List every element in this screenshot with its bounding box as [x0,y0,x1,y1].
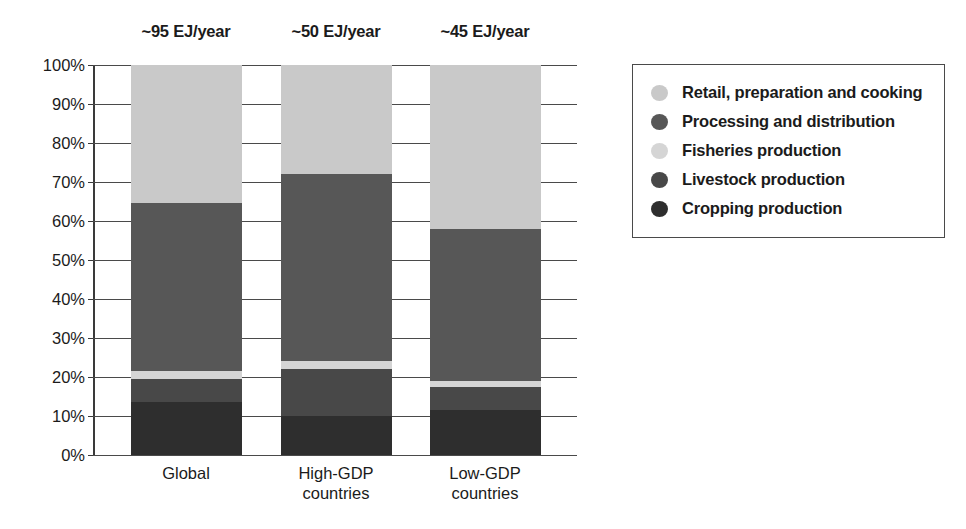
x-tick-label-line: High-GDP [256,463,416,483]
x-tick-label-line: Low-GDP [405,463,565,483]
legend-item[interactable]: Fisheries production [651,136,936,165]
bar-annotation: ~95 EJ/year [111,22,261,41]
y-tick-0 [88,455,93,456]
y-tick-100 [88,65,93,66]
legend-item-label: Livestock production [682,170,845,189]
x-tick-label: Low-GDPcountries [405,463,565,503]
stacked-bar-chart: ~95 EJ/year~50 EJ/year~45 EJ/year 100%90… [0,0,620,529]
y-tick-70 [88,182,93,183]
bar-segment-processing-and-distribution [430,229,541,381]
x-tick-label: Global [106,463,266,483]
y-tick-label: 30% [7,330,85,347]
legend-item-label: Cropping production [682,199,842,218]
y-tick-label: 60% [7,213,85,230]
bar-high-gdp-countries [281,65,392,455]
legend-item-label: Fisheries production [682,141,841,160]
legend-items: Retail, preparation and cookingProcessin… [651,78,936,223]
bar-segment-retail-preparation-and-cooking [430,65,541,229]
legend-item[interactable]: Livestock production [651,165,936,194]
bar-low-gdp-countries [430,65,541,455]
bar-segment-fisheries-production [281,361,392,369]
bar-segment-livestock-production [281,369,392,416]
legend-item[interactable]: Processing and distribution [651,107,936,136]
legend-item[interactable]: Cropping production [651,194,936,223]
y-tick-40 [88,299,93,300]
legend-swatch-circle-icon [651,172,668,188]
gridline-0 [93,455,577,456]
bar-annotation: ~45 EJ/year [410,22,560,41]
legend-swatch-circle-icon [651,143,668,159]
legend-swatch-circle-icon [651,85,668,101]
x-tick-label-line: Global [106,463,266,483]
y-tick-90 [88,104,93,105]
bar-segment-livestock-production [131,379,242,402]
y-tick-label: 40% [7,291,85,308]
bar-segment-cropping-production [131,402,242,455]
x-tick-label-line: countries [405,483,565,503]
bar-segment-retail-preparation-and-cooking [281,65,392,174]
bar-global [131,65,242,455]
y-tick-label: 20% [7,369,85,386]
legend-swatch-circle-icon [651,201,668,217]
legend-item[interactable]: Retail, preparation and cooking [651,78,936,107]
y-tick-50 [88,260,93,261]
plot-area [93,65,577,455]
y-tick-label: 0% [7,447,85,464]
bar-segment-processing-and-distribution [281,174,392,361]
y-tick-label: 100% [7,57,85,74]
y-tick-label: 50% [7,252,85,269]
y-tick-20 [88,377,93,378]
bar-segment-fisheries-production [131,371,242,379]
bar-segment-cropping-production [430,410,541,455]
y-tick-label: 90% [7,96,85,113]
y-tick-label: 10% [7,408,85,425]
y-tick-label: 70% [7,174,85,191]
bar-annotation: ~50 EJ/year [261,22,411,41]
legend-item-label: Processing and distribution [682,112,895,131]
legend: Retail, preparation and cookingProcessin… [632,64,945,238]
legend-swatch-circle-icon [651,114,668,130]
y-tick-60 [88,221,93,222]
x-tick-label-line: countries [256,483,416,503]
y-tick-10 [88,416,93,417]
x-tick-label: High-GDPcountries [256,463,416,503]
legend-item-label: Retail, preparation and cooking [682,83,922,102]
y-tick-80 [88,143,93,144]
y-tick-30 [88,338,93,339]
bar-segment-processing-and-distribution [131,203,242,371]
bar-segment-cropping-production [281,416,392,455]
bar-segment-retail-preparation-and-cooking [131,65,242,203]
y-axis-tick-labels: 100%90%80%70%60%50%40%30%20%10%0% [0,65,85,455]
y-tick-label: 80% [7,135,85,152]
bar-segment-livestock-production [430,387,541,410]
bar-segment-fisheries-production [430,381,541,387]
